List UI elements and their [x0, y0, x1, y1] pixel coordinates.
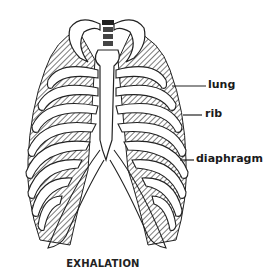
label-rib: rib	[205, 108, 222, 120]
spine	[102, 20, 114, 46]
sternum	[95, 50, 119, 160]
diagram-caption: EXHALATION	[0, 258, 206, 269]
label-diaphragm: diaphragm	[196, 153, 263, 165]
label-lung: lung	[208, 79, 235, 91]
rib-cage-illustration	[0, 0, 270, 278]
